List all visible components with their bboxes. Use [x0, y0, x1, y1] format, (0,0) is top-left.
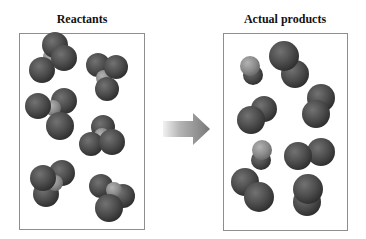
dark-atom: [51, 45, 77, 71]
product-molecule: [231, 168, 274, 212]
product-molecule: [240, 56, 263, 85]
dark-atom: [104, 55, 128, 79]
reactant-molecule: [29, 32, 77, 83]
product-molecule: [293, 174, 323, 216]
product-molecule: [269, 41, 309, 88]
reactant-molecule: [89, 174, 135, 222]
atom: [293, 174, 323, 204]
atom: [240, 56, 260, 76]
atom: [269, 41, 299, 71]
reactant-molecule: [86, 53, 128, 101]
dark-atom: [29, 57, 55, 83]
dark-atom: [25, 93, 51, 119]
dark-atom: [46, 112, 74, 140]
atom: [252, 140, 272, 160]
atom: [237, 106, 265, 134]
dark-atom: [95, 77, 119, 101]
reactant-molecule: [79, 115, 125, 156]
product-molecule: [302, 84, 335, 128]
atom: [244, 182, 274, 212]
reactant-molecule: [30, 160, 75, 207]
atom: [284, 142, 312, 170]
reaction-arrow-icon: [163, 113, 210, 145]
atom: [302, 100, 330, 128]
reactant-molecule: [25, 88, 77, 140]
products-molecules: [231, 41, 335, 216]
dark-atom: [99, 129, 125, 155]
diagram-canvas: [0, 0, 366, 239]
dark-atom: [30, 165, 56, 191]
product-molecule: [284, 138, 335, 170]
reactants-molecules: [25, 32, 135, 222]
product-molecule: [251, 140, 272, 170]
product-molecule: [237, 96, 277, 134]
dark-atom: [95, 194, 123, 222]
